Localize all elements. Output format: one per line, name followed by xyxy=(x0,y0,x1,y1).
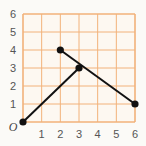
y-tick-label: 6 xyxy=(10,8,16,20)
y-tick-label: 4 xyxy=(10,44,16,56)
y-tick-label: 2 xyxy=(10,80,16,92)
x-tick-label: 1 xyxy=(39,128,45,140)
endpoint-dot xyxy=(57,46,64,53)
x-tick-label: 3 xyxy=(76,128,82,140)
chart-canvas: 123456 123456 O xyxy=(0,0,146,146)
x-tick-label: 4 xyxy=(95,128,101,140)
x-tick-label: 6 xyxy=(132,128,138,140)
x-axis-tick-labels: 123456 xyxy=(39,128,138,140)
coordinate-grid-chart: 123456 123456 O xyxy=(0,0,146,146)
endpoint-dot xyxy=(19,118,26,125)
y-tick-label: 1 xyxy=(10,98,16,110)
endpoint-dot xyxy=(131,100,138,107)
x-tick-label: 5 xyxy=(113,128,119,140)
x-tick-label: 2 xyxy=(57,128,63,140)
y-tick-label: 3 xyxy=(10,62,16,74)
y-tick-label: 5 xyxy=(10,26,16,38)
origin-label: O xyxy=(9,120,18,134)
y-axis-tick-labels: 123456 xyxy=(10,8,16,110)
